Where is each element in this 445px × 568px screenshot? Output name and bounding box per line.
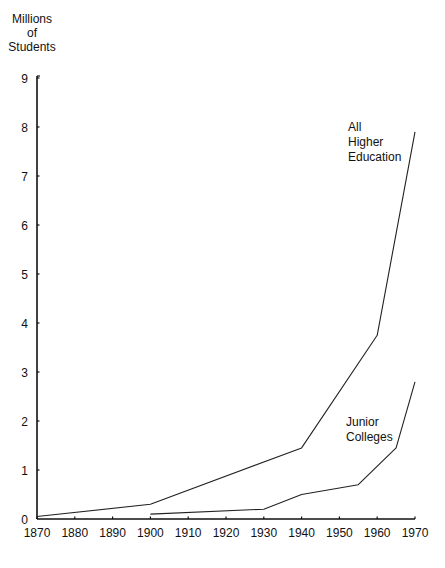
x-tick-label: 1970	[402, 526, 429, 540]
y-tick-label: 9	[21, 72, 28, 86]
series-line-all-higher-education	[37, 132, 415, 517]
x-tick-label: 1870	[24, 526, 51, 540]
series-lines	[37, 132, 415, 517]
x-tick-label: 1880	[61, 526, 88, 540]
y-tick-label: 0	[21, 513, 28, 527]
y-tick-label: 1	[21, 464, 28, 478]
series-line-junior-colleges	[150, 382, 415, 514]
series-label-line: Junior	[346, 415, 393, 430]
x-tick-label: 1930	[250, 526, 277, 540]
x-tick-label: 1890	[99, 526, 126, 540]
y-tick-label: 2	[21, 415, 28, 429]
y-tick-label: 3	[21, 366, 28, 380]
series-label-line: All	[348, 120, 401, 135]
y-tick-label: 8	[21, 121, 28, 135]
series-label-junior-colleges: Junior Colleges	[346, 415, 393, 445]
line-chart: 0123456789187018801890190019101920193019…	[0, 0, 445, 568]
series-label-line: Higher	[348, 135, 401, 150]
x-tick-label: 1910	[175, 526, 202, 540]
x-tick-label: 1940	[288, 526, 315, 540]
y-tick-label: 6	[21, 219, 28, 233]
x-tick-label: 1960	[364, 526, 391, 540]
series-label-line: Colleges	[346, 430, 393, 445]
y-tick-label: 5	[21, 268, 28, 282]
x-tick-label: 1900	[137, 526, 164, 540]
x-tick-label: 1920	[213, 526, 240, 540]
series-label-line: Education	[348, 150, 401, 165]
x-tick-label: 1950	[326, 526, 353, 540]
y-tick-label: 4	[21, 317, 28, 331]
y-tick-label: 7	[21, 170, 28, 184]
series-label-all-higher-education: All Higher Education	[348, 120, 401, 165]
